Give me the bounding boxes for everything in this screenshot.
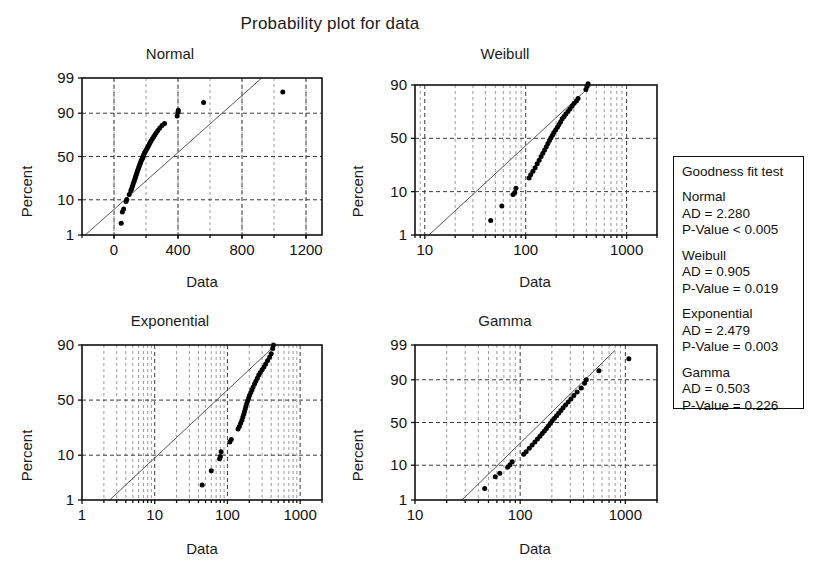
page-title: Probability plot for data — [0, 14, 660, 34]
tick-label: 10 — [416, 241, 433, 258]
data-point — [280, 89, 285, 94]
tick-label: 50 — [390, 414, 407, 431]
data-point — [576, 96, 581, 101]
tick-label: 99 — [390, 336, 407, 353]
panel-weibull: Weibull Percent Data 1010010001105090 — [335, 45, 675, 300]
data-point — [229, 437, 234, 442]
tick-label: 10 — [407, 506, 424, 523]
tick-label: 1 — [399, 491, 407, 508]
panel-normal: Normal Percent Data 04008001200110509099 — [0, 45, 340, 300]
tick-label: 1200 — [289, 241, 322, 258]
tick-label: 100 — [513, 241, 538, 258]
axis-label-x-weibull: Data — [415, 273, 655, 290]
legend-entry-weibull: Weibull AD = 0.905 P-Value = 0.019 — [682, 248, 803, 298]
data-point — [596, 368, 601, 373]
tick-label: 50 — [390, 129, 407, 146]
tick-label: 90 — [57, 104, 74, 121]
data-point — [121, 207, 126, 212]
data-point — [499, 203, 504, 208]
legend-entry-ad: AD = 2.479 — [682, 323, 803, 340]
legend-entry-pvalue: P-Value = 0.003 — [682, 339, 803, 356]
data-point — [218, 454, 223, 459]
panel-gamma: Gamma Percent Data 101001000110509099 — [335, 312, 675, 572]
legend-entry-exponential: Exponential AD = 2.479 P-Value = 0.003 — [682, 306, 803, 356]
tick-label: 10 — [57, 446, 74, 463]
data-point — [200, 483, 205, 488]
axis-label-x-normal: Data — [82, 273, 322, 290]
data-point — [269, 351, 274, 356]
tick-label: 1000 — [610, 241, 643, 258]
legend-entry-name: Exponential — [682, 306, 803, 323]
legend-entry-ad: AD = 0.503 — [682, 381, 803, 398]
data-point — [219, 449, 224, 454]
tick-label: 50 — [57, 148, 74, 165]
tick-label: 1000 — [283, 506, 316, 523]
tick-label: 50 — [57, 391, 74, 408]
data-point — [209, 468, 214, 473]
data-point — [497, 471, 502, 476]
axis-label-x-gamma: Data — [415, 540, 655, 557]
tick-label: 10 — [390, 183, 407, 200]
legend-entry-name: Gamma — [682, 365, 803, 382]
data-point — [584, 377, 589, 382]
data-point — [626, 356, 631, 361]
data-point — [579, 385, 584, 390]
tick-label: 10 — [57, 191, 74, 208]
legend-entry-normal: Normal AD = 2.280 P-Value < 0.005 — [682, 189, 803, 239]
data-point — [513, 186, 518, 191]
data-point — [124, 197, 129, 202]
data-point — [201, 100, 206, 105]
tick-label: 1000 — [609, 506, 642, 523]
tick-label: 90 — [57, 336, 74, 353]
data-point — [575, 389, 580, 394]
legend-entry-ad: AD = 0.905 — [682, 264, 803, 281]
tick-label: 100 — [215, 506, 240, 523]
goodness-of-fit-legend: Goodness fit test Normal AD = 2.280 P-Va… — [673, 156, 804, 409]
data-point — [493, 474, 498, 479]
tick-label: 400 — [165, 241, 190, 258]
tick-label: 10 — [390, 456, 407, 473]
plot-exponential: 11010010001105090 — [0, 312, 340, 537]
data-point — [488, 218, 493, 223]
plot-gamma: 101001000110509099 — [335, 312, 675, 537]
tick-label: 90 — [390, 76, 407, 93]
tick-label: 0 — [110, 241, 118, 258]
tick-label: 1 — [399, 226, 407, 243]
tick-label: 1 — [78, 506, 86, 523]
tick-label: 90 — [390, 371, 407, 388]
tick-label: 10 — [146, 506, 163, 523]
plot-normal: 04008001200110509099 — [0, 45, 340, 270]
tick-label: 100 — [508, 506, 533, 523]
legend-heading: Goodness fit test — [682, 164, 803, 179]
data-point — [510, 459, 515, 464]
tick-label: 800 — [229, 241, 254, 258]
panel-exponential: Exponential Percent Data 110100100011050… — [0, 312, 340, 572]
axis-label-x-exponential: Data — [82, 540, 322, 557]
plot-weibull: 1010010001105090 — [335, 45, 675, 270]
legend-entry-ad: AD = 2.280 — [682, 206, 803, 223]
tick-label: 1 — [66, 226, 74, 243]
tick-label: 99 — [57, 69, 74, 86]
legend-entry-pvalue: P-Value = 0.226 — [682, 398, 803, 415]
data-point — [176, 108, 181, 113]
legend-entry-name: Normal — [682, 189, 803, 206]
data-point — [512, 190, 517, 195]
legend-entry-name: Weibull — [682, 248, 803, 265]
data-point — [162, 121, 167, 126]
legend-entry-pvalue: P-Value < 0.005 — [682, 222, 803, 239]
data-point — [482, 486, 487, 491]
tick-label: 1 — [66, 491, 74, 508]
data-point — [119, 221, 124, 226]
legend-entry-gamma: Gamma AD = 0.503 P-Value = 0.226 — [682, 365, 803, 415]
legend-entry-pvalue: P-Value = 0.019 — [682, 281, 803, 298]
